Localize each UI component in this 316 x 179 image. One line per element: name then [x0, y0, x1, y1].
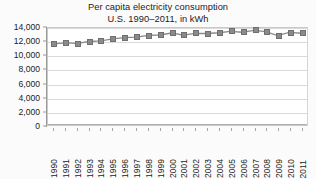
x-axis-tick-label: 2000	[168, 159, 178, 178]
x-axis-tick	[160, 128, 161, 131]
x-axis-tick	[100, 128, 101, 131]
x-axis-tick-label: 2008	[262, 159, 272, 178]
x-axis-tick-label: 2007	[251, 159, 261, 178]
data-point-marker	[205, 31, 211, 37]
x-axis-tick-label: 1991	[61, 159, 71, 178]
y-axis-tick-label: 14,000	[14, 22, 40, 32]
x-axis-baseline	[48, 124, 307, 125]
x-axis-tick-label: 1996	[120, 159, 130, 178]
x-axis-tick	[255, 128, 256, 131]
y-axis-tick-label: 10,000	[14, 50, 40, 60]
y-axis-tick-label: 4,000	[18, 93, 40, 103]
y-axis-tick-label: 2,000	[18, 107, 40, 117]
x-axis-tick	[172, 128, 173, 131]
data-point-marker	[75, 41, 81, 47]
x-axis-tick-label: 2006	[239, 159, 249, 178]
page-title: Per capita electricity consumption	[0, 2, 316, 13]
x-axis-tick-label: 1992	[73, 159, 83, 178]
data-point-marker	[51, 41, 57, 47]
x-axis-tick	[290, 128, 291, 131]
x-axis-tick	[77, 128, 78, 131]
x-axis-tick-label: 2009	[274, 159, 284, 178]
data-point-marker	[122, 35, 128, 41]
x-axis-tick	[302, 128, 303, 131]
x-axis-tick	[219, 128, 220, 131]
x-axis-tick-label: 1998	[144, 159, 154, 178]
x-axis-tick-label: 2010	[286, 159, 296, 178]
x-axis-tick-label: 1994	[96, 159, 106, 178]
data-point-marker	[217, 30, 223, 36]
x-axis-tick	[243, 128, 244, 131]
x-axis-tick	[195, 128, 196, 131]
x-axis-tick	[89, 128, 90, 131]
y-axis-tick-label: 12,000	[14, 36, 40, 46]
chart-container: Per capita electricity consumption U.S. …	[0, 0, 316, 179]
x-axis-tick-label: 1999	[156, 159, 166, 178]
data-point-marker	[134, 34, 140, 40]
y-axis-tick-label: 8,000	[18, 64, 40, 74]
x-axis-tick-label: 2005	[227, 159, 237, 178]
data-point-marker	[98, 38, 104, 44]
data-point-marker	[241, 29, 247, 35]
x-axis-tick	[148, 128, 149, 131]
x-axis-tick	[183, 128, 184, 131]
x-axis-tick-label: 2003	[203, 159, 213, 178]
data-point-marker	[63, 40, 69, 46]
x-axis-tick	[207, 128, 208, 131]
data-point-marker	[253, 27, 259, 33]
x-axis-tick-label: 2002	[191, 159, 201, 178]
x-axis-tick-label: 2004	[215, 159, 225, 178]
data-point-marker	[264, 29, 270, 35]
x-axis-tick	[136, 128, 137, 131]
data-point-marker	[158, 32, 164, 38]
data-point-marker	[229, 28, 235, 34]
data-point-marker	[110, 36, 116, 42]
x-axis-tick	[124, 128, 125, 131]
data-point-marker	[170, 30, 176, 36]
x-axis-tick	[278, 128, 279, 131]
x-axis-tick	[112, 128, 113, 131]
data-point-marker	[276, 33, 282, 39]
x-axis-tick	[53, 128, 54, 131]
x-axis-labels: 1990199119921993199419951996199719981999…	[47, 128, 308, 178]
chart-title-block: Per capita electricity consumption U.S. …	[0, 2, 316, 25]
x-axis-tick	[266, 128, 267, 131]
y-axis-tick-label: 0	[35, 121, 40, 131]
chart-subtitle: U.S. 1990–2011, in kWh	[0, 14, 316, 25]
x-axis-tick	[231, 128, 232, 131]
x-axis-tick-label: 2001	[179, 159, 189, 178]
data-point-marker	[288, 30, 294, 36]
data-point-marker	[146, 33, 152, 39]
x-axis-tick-label: 1993	[85, 159, 95, 178]
data-point-marker	[181, 32, 187, 38]
data-point-marker	[87, 39, 93, 45]
plot-area	[47, 27, 308, 126]
x-axis-tick-label: 1990	[49, 159, 59, 178]
x-axis-tick-label: 1997	[132, 159, 142, 178]
x-axis-tick	[65, 128, 66, 131]
data-point-marker	[193, 30, 199, 36]
data-point-marker	[300, 30, 306, 36]
y-axis-tick-label: 6,000	[18, 79, 40, 89]
y-axis-labels: 14,00012,00010,0008,0006,0004,0002,0000	[0, 27, 44, 126]
x-axis-tick-label: 2011	[298, 160, 308, 178]
x-axis-tick-label: 1995	[108, 159, 118, 178]
